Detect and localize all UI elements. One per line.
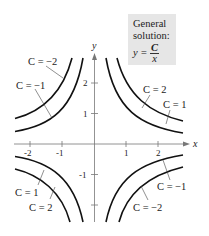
curve-label: C = 1 (163, 99, 186, 110)
equation-lhs: y = (133, 47, 147, 58)
y-tick-label: -1 (79, 170, 87, 180)
curve-label: C = 2 (143, 84, 166, 95)
curve-label: C = 2 (29, 202, 52, 213)
x-axis-arrow-icon (183, 142, 190, 147)
y-axis-arrow-icon (92, 53, 97, 60)
equation-denominator: x (150, 54, 159, 64)
curve-label: C = 1 (15, 187, 38, 198)
box-line-2: solution: (133, 30, 176, 42)
curve-c-1-q1 (106, 58, 183, 133)
y-tick-label: 2 (83, 78, 88, 88)
curve-label: C = −1 (157, 181, 186, 192)
x-tick-label: -1 (56, 148, 64, 158)
curve-c-neg2-q4 (119, 167, 183, 222)
curve-c-neg1-q2 (15, 58, 83, 132)
x-tick-label: 2 (156, 148, 161, 158)
curve-label: C = −1 (16, 80, 45, 91)
equation: y = C x (133, 43, 176, 64)
equation-fraction: C x (150, 43, 159, 64)
x-axis-label: x (192, 138, 198, 149)
curve-label: C = −2 (133, 202, 162, 213)
x-tick-label: -2 (24, 148, 32, 158)
general-solution-box: General solution: y = C x (128, 14, 176, 65)
x-tick-label: 1 (124, 148, 129, 158)
box-line-1: General (133, 18, 176, 30)
direction-field-chart: x y -2 -1 1 2 2 1 -1 C = −2 (0, 0, 209, 236)
y-tick-label: 1 (83, 109, 88, 119)
curve-label: C = −2 (28, 56, 57, 67)
y-axis-label: y (91, 40, 97, 51)
